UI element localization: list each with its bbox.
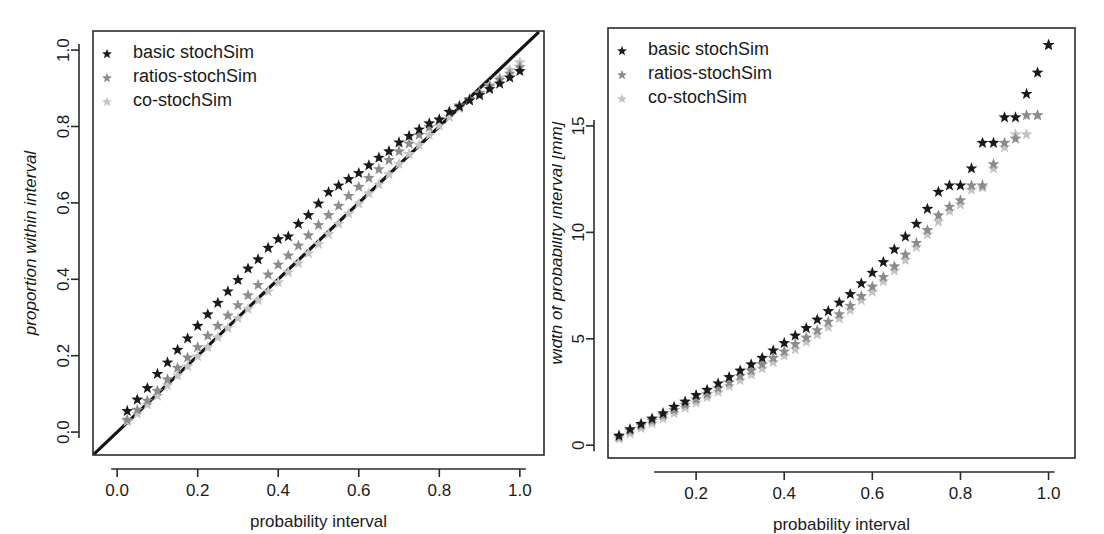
- x-tick-label: 0.2: [684, 484, 708, 503]
- data-point-star: [393, 145, 405, 156]
- data-point-star: [1021, 88, 1033, 99]
- data-point-star: [152, 368, 164, 379]
- data-point-star: [855, 277, 867, 288]
- y-tick-label: 0.2: [54, 344, 73, 368]
- data-point-star: [262, 269, 274, 280]
- x-tick-label: 0.8: [427, 481, 451, 500]
- data-point-star: [922, 203, 934, 214]
- legend: basic stochSimratios-stochSimco-stochSim: [102, 42, 257, 110]
- data-point-star: [262, 242, 274, 253]
- data-point-star: [282, 249, 294, 260]
- x-tick-label: 0.6: [861, 484, 885, 503]
- data-point-star: [303, 229, 315, 240]
- legend-label: co-stochSim: [648, 87, 747, 107]
- y-tick-label: 0.0: [54, 420, 73, 444]
- x-axis-title: probability interval: [250, 512, 387, 531]
- x-tick-label: 0.8: [949, 484, 973, 503]
- data-point-star: [333, 180, 345, 191]
- data-point-star: [313, 238, 325, 249]
- data-point-star: [242, 289, 254, 300]
- data-point-star: [911, 218, 923, 229]
- data-point-star: [999, 111, 1011, 122]
- data-point-star: [944, 179, 956, 190]
- y-tick-label: 5: [569, 334, 588, 343]
- data-point-star: [373, 152, 385, 163]
- legend-label: ratios-stochSim: [133, 66, 257, 86]
- data-point-star: [373, 163, 385, 174]
- data-point-star: [252, 279, 264, 290]
- data-point-star: [1032, 109, 1044, 120]
- legend-label: ratios-stochSim: [648, 63, 772, 83]
- legend-label: co-stochSim: [133, 90, 232, 110]
- data-point-star: [1043, 39, 1055, 50]
- data-point-star: [162, 356, 174, 367]
- data-point-star: [977, 137, 989, 148]
- data-point-star: [252, 253, 264, 264]
- x-tick-label: 0.0: [105, 481, 129, 500]
- data-point-star: [866, 267, 878, 278]
- y-tick-label: 0.8: [54, 115, 73, 139]
- data-point-star: [212, 297, 224, 308]
- legend-star-marker: [617, 94, 627, 103]
- data-point-star: [232, 274, 244, 285]
- data-point-star: [1021, 109, 1033, 120]
- interval-width-plot-svg: 0.20.40.60.81.0probability interval05101…: [552, 0, 1104, 534]
- x-axis-title: probability interval: [773, 515, 910, 534]
- data-point-star: [353, 167, 365, 178]
- calibration-plot-svg: 0.00.20.40.60.81.0probability interval0.…: [0, 0, 552, 534]
- data-point-star: [343, 173, 355, 184]
- legend-star-marker: [617, 46, 627, 55]
- data-point-star: [403, 137, 415, 148]
- data-point-star: [272, 233, 284, 244]
- data-point-star: [323, 209, 335, 220]
- data-point-star: [232, 299, 244, 310]
- interval-width-plot-panel: 0.20.40.60.81.0probability interval05101…: [552, 0, 1104, 534]
- data-point-star: [933, 186, 945, 197]
- data-point-star: [292, 257, 304, 268]
- data-point-star: [833, 296, 845, 307]
- data-point-star: [383, 154, 395, 165]
- data-point-star: [844, 288, 856, 299]
- data-point-star: [1021, 128, 1033, 139]
- data-point-star: [212, 320, 224, 331]
- x-tick-label: 1.0: [1037, 484, 1061, 503]
- data-point-star: [192, 320, 204, 331]
- data-point-star: [182, 332, 194, 343]
- data-point-star: [272, 259, 284, 270]
- legend-label: basic stochSim: [133, 42, 254, 62]
- data-point-star: [353, 181, 365, 192]
- y-axis-title: proportion within interval: [21, 150, 40, 336]
- data-point-star: [222, 309, 234, 320]
- data-point-star: [955, 179, 967, 190]
- legend-star-marker: [617, 70, 627, 79]
- y-tick-label: 10: [569, 223, 588, 242]
- legend-label: basic stochSim: [648, 39, 769, 59]
- legend-star-marker: [102, 49, 112, 58]
- data-point-star: [988, 137, 1000, 148]
- y-axis-title: width of probability interval [mm]: [552, 120, 566, 364]
- data-point-star: [313, 219, 325, 230]
- data-point-star: [202, 308, 214, 319]
- calibration-plot-panel: 0.00.20.40.60.81.0probability interval0.…: [0, 0, 552, 534]
- x-tick-label: 1.0: [508, 481, 532, 500]
- data-point-star: [811, 313, 823, 324]
- x-tick-label: 0.4: [772, 484, 796, 503]
- y-tick-label: 0.6: [54, 191, 73, 215]
- data-point-star: [313, 197, 325, 208]
- figure-container: 0.00.20.40.60.81.0probability interval0.…: [0, 0, 1104, 534]
- data-point-star: [292, 239, 304, 250]
- data-point-star: [303, 209, 315, 220]
- series-basic-stochsim: [121, 65, 525, 416]
- y-tick-label: 0: [569, 440, 588, 449]
- y-tick-label: 1.0: [54, 38, 73, 62]
- data-point-star: [292, 218, 304, 229]
- data-point-star: [272, 276, 284, 287]
- legend-star-marker: [102, 73, 112, 82]
- data-point-star: [242, 262, 254, 273]
- y-tick-label: 15: [569, 116, 588, 135]
- data-point-star: [1032, 67, 1044, 78]
- data-point-star: [363, 159, 375, 170]
- data-point-star: [1010, 132, 1022, 143]
- legend: basic stochSimratios-stochSimco-stochSim: [617, 39, 772, 107]
- data-point-star: [141, 382, 153, 393]
